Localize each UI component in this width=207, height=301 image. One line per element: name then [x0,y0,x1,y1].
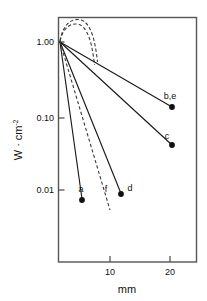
log-linear-line-chart: 1.00 0.10 0.01 10 20 mm W · cm-2 [0,0,207,301]
curve-label-a: a [78,184,83,194]
data-point-d [118,191,124,197]
y-tick-label-3: 0.01 [36,185,54,195]
curve-label-be: b,e [164,91,177,101]
y-tick-label-1: 1.00 [36,37,54,47]
x-tick-label-20: 20 [165,267,175,277]
x-tick-label-10: 10 [105,267,115,277]
y-tick-label-2: 0.10 [36,113,54,123]
data-point-c [169,142,175,148]
curve-label-c: c [165,131,170,141]
data-point-be [169,104,175,110]
y-axis-title-main: W · cm [12,125,24,160]
curve-label-d: d [127,183,132,193]
data-point-a [79,197,85,203]
x-axis-title: mm [118,283,136,295]
y-axis-title-exponent: -2 [12,119,19,125]
figure-container: 1.00 0.10 0.01 10 20 mm W · cm-2 [0,0,207,301]
